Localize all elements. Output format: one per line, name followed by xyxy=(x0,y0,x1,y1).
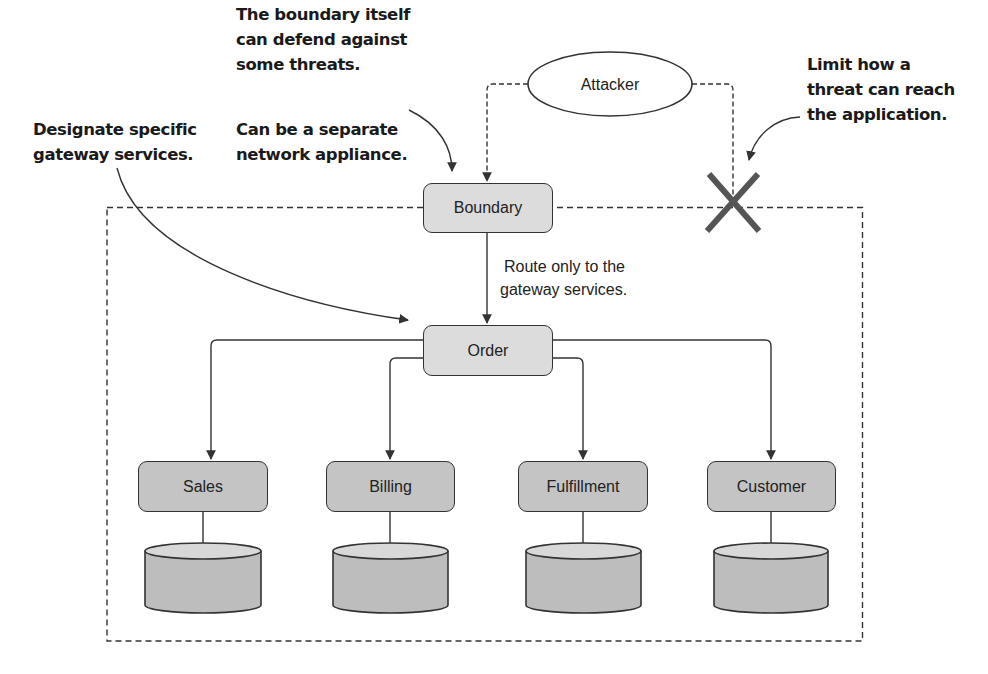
limit-annotation-arrow xyxy=(749,117,800,160)
order-to-customer-arrow xyxy=(553,340,771,459)
boundary-annotation-arrow xyxy=(409,110,452,171)
order-node: Order xyxy=(423,325,553,376)
route-note-line-1: Route only to the xyxy=(500,255,627,278)
order-to-sales-arrow xyxy=(211,340,423,459)
boundary-appliance-line-2: network appliance. xyxy=(236,142,407,167)
gateway-annotation-line-1: Designate specific xyxy=(33,117,197,142)
order-to-billing-arrow xyxy=(390,358,423,459)
limit-threat-annotation: Limit how a threat can reach the applica… xyxy=(807,52,955,127)
billing-label: Billing xyxy=(369,478,412,496)
gateway-annotation-arrow xyxy=(117,168,408,320)
boundary-appliance-annotation: Can be a separate network appliance. xyxy=(236,117,407,167)
route-note-line-2: gateway services. xyxy=(500,278,627,301)
sales-node: Sales xyxy=(138,461,268,512)
gateway-annotation: Designate specific gateway services. xyxy=(33,117,197,167)
boundary-defend-annotation: The boundary itself can defend against s… xyxy=(236,2,410,77)
boundary-defend-line-1: The boundary itself xyxy=(236,2,410,27)
gateway-annotation-line-2: gateway services. xyxy=(33,142,197,167)
order-label: Order xyxy=(468,342,509,360)
limit-threat-line-3: the application. xyxy=(807,102,955,127)
boundary-defend-line-3: some threats. xyxy=(236,52,410,77)
limit-threat-line-2: threat can reach xyxy=(807,77,955,102)
route-note: Route only to the gateway services. xyxy=(500,255,627,301)
sales-database-icon xyxy=(145,543,261,613)
fulfillment-node: Fulfillment xyxy=(518,461,648,512)
fulfillment-label: Fulfillment xyxy=(547,478,620,496)
billing-database-icon xyxy=(333,543,448,613)
billing-node: Billing xyxy=(326,461,455,512)
customer-label: Customer xyxy=(737,478,806,496)
limit-threat-line-1: Limit how a xyxy=(807,52,955,77)
fulfillment-database-icon xyxy=(526,543,641,613)
boundary-defend-line-2: can defend against xyxy=(236,27,410,52)
customer-database-icon xyxy=(714,543,828,613)
sales-label: Sales xyxy=(183,478,223,496)
attacker-path-blocked xyxy=(692,84,733,200)
attacker-path-to-boundary xyxy=(487,84,528,181)
order-to-fulfillment-arrow xyxy=(553,358,583,459)
boundary-node: Boundary xyxy=(423,183,553,233)
customer-node: Customer xyxy=(707,461,836,512)
boundary-appliance-line-1: Can be a separate xyxy=(236,117,407,142)
boundary-label: Boundary xyxy=(454,199,523,217)
attacker-label: Attacker xyxy=(528,73,692,96)
